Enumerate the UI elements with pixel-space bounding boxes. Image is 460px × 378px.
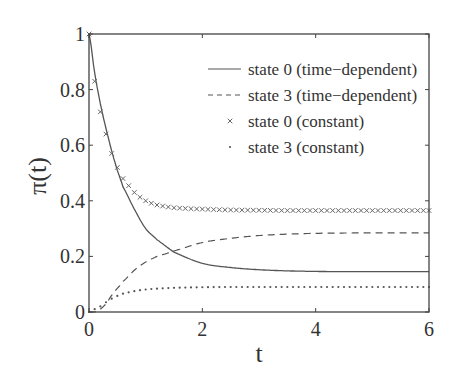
series-dashed: [89, 233, 429, 312]
y-tick-label: 0.8: [60, 79, 85, 101]
legend-item: state 0 (time−dependent): [208, 60, 417, 79]
legend: state 0 (time−dependent)state 3 (time−de…: [208, 60, 417, 157]
x-axis-label: t: [255, 339, 263, 368]
legend-swatch: [228, 119, 233, 124]
x-tick-label: 4: [311, 318, 321, 340]
y-tick-label: 0.4: [60, 190, 85, 212]
y-axis-label: π(t): [23, 157, 52, 195]
x-tick-label: 6: [424, 318, 434, 340]
y-tick-label: 1: [75, 23, 85, 45]
x-tick-label: 0: [84, 318, 94, 340]
legend-label: state 0 (constant): [248, 112, 364, 131]
legend-label: state 0 (time−dependent): [248, 60, 417, 79]
legend-label: state 3 (time−dependent): [248, 86, 417, 105]
legend-item: state 0 (constant): [228, 112, 364, 131]
legend-item: state 3 (time−dependent): [208, 86, 417, 105]
line-chart: 0246 00.20.40.60.81 t π(t) state 0 (time…: [0, 0, 460, 378]
legend-item: state 3 (constant): [229, 138, 364, 157]
y-tick-label: 0: [75, 301, 85, 323]
y-tick-labels: 00.20.40.60.81: [60, 23, 85, 323]
y-tick-label: 0.6: [60, 134, 85, 156]
series-dotted: [88, 286, 430, 313]
y-tick-label: 0.2: [60, 245, 85, 267]
legend-label: state 3 (constant): [248, 138, 364, 157]
x-tick-labels: 0246: [84, 318, 434, 340]
x-tick-label: 2: [197, 318, 207, 340]
legend-swatch: [229, 146, 231, 148]
